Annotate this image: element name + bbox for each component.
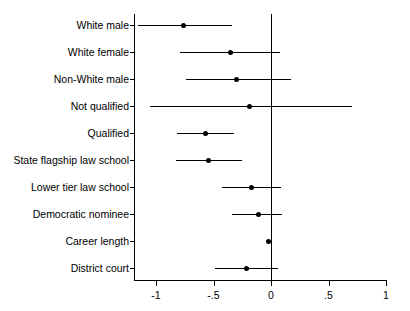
point-estimate-marker	[228, 50, 233, 55]
category-tick	[130, 133, 135, 134]
point-estimate-marker	[206, 158, 211, 163]
x-axis-tick-label: -1	[141, 288, 171, 302]
x-axis-tick	[156, 281, 157, 286]
category-tick	[130, 160, 135, 161]
category-label: District court	[71, 260, 129, 276]
category-label: White male	[76, 17, 129, 33]
point-estimate-marker	[244, 266, 249, 271]
x-axis-tick	[329, 281, 330, 286]
category-label: State flagship law school	[13, 152, 129, 168]
category-label: Non-White male	[54, 71, 129, 87]
point-estimate-marker	[256, 212, 261, 217]
x-axis-tick-label: 1	[371, 288, 401, 302]
coefficient-plot: White maleWhite femaleNon-White maleNot …	[0, 0, 410, 311]
category-tick	[130, 214, 135, 215]
x-axis-tick-label: .5	[314, 288, 344, 302]
plot-area: White maleWhite femaleNon-White maleNot …	[0, 0, 410, 311]
point-estimate-marker	[181, 23, 186, 28]
x-axis-tick	[214, 281, 215, 286]
category-tick	[130, 187, 135, 188]
x-axis-tick-label: -.5	[199, 288, 229, 302]
x-axis-tick	[386, 281, 387, 286]
point-estimate-marker	[249, 185, 254, 190]
category-tick	[130, 79, 135, 80]
category-row: Democratic nominee	[0, 214, 410, 215]
category-tick	[130, 106, 135, 107]
x-axis-line	[134, 280, 387, 281]
category-row: Career length	[0, 241, 410, 242]
category-tick	[130, 241, 135, 242]
category-row: Lower tier law school	[0, 187, 410, 188]
x-axis-tick-label: 0	[256, 288, 286, 302]
category-tick	[130, 52, 135, 53]
category-row: Not qualified	[0, 106, 410, 107]
category-label: Not qualified	[71, 98, 129, 114]
point-estimate-marker	[247, 104, 252, 109]
category-label: White female	[68, 44, 129, 60]
category-tick	[130, 268, 135, 269]
category-row: White female	[0, 52, 410, 53]
category-row: Non-White male	[0, 79, 410, 80]
category-label: Career length	[65, 233, 129, 249]
category-row: Qualified	[0, 133, 410, 134]
category-row: White male	[0, 25, 410, 26]
category-tick	[130, 25, 135, 26]
category-label: Qualified	[88, 125, 129, 141]
point-estimate-marker	[234, 77, 239, 82]
category-label: Lower tier law school	[31, 179, 129, 195]
point-estimate-marker	[203, 131, 208, 136]
category-row: State flagship law school	[0, 160, 410, 161]
category-label: Democratic nominee	[33, 206, 129, 222]
x-axis-tick	[271, 281, 272, 286]
category-row: District court	[0, 268, 410, 269]
